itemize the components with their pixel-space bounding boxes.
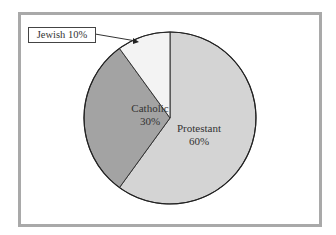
label-catholic-name: Catholic [131, 102, 168, 114]
jewish-callout-label: Jewish 10% [28, 27, 96, 43]
callout-arrow [95, 34, 136, 41]
label-catholic-value: 30% [140, 115, 160, 127]
label-protestant-value: 60% [189, 135, 209, 147]
label-protestant-name: Protestant [177, 122, 221, 134]
